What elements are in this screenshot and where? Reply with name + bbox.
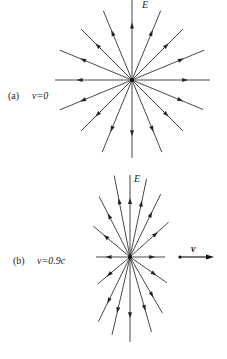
field-line [130, 257, 163, 313]
panel-a-field-label: E [142, 0, 148, 10]
field-diagram [0, 0, 227, 359]
arrowhead-icon [80, 59, 86, 63]
field-line [130, 194, 161, 257]
field-line [130, 257, 167, 283]
field-line [81, 29, 132, 80]
arrowhead-icon [149, 291, 154, 297]
field-line [99, 196, 130, 257]
arrowhead-icon [148, 212, 152, 218]
arrowhead-icon [107, 297, 111, 303]
arrowhead-icon [77, 78, 83, 82]
panel-b-tag: (b) [13, 255, 25, 266]
arrowhead-icon [149, 30, 153, 36]
arrowhead-icon [182, 78, 188, 82]
charge-dot-icon [130, 78, 134, 82]
panel-b-field-lines [93, 175, 168, 342]
arrowhead-icon [178, 59, 184, 63]
arrowhead-icon [130, 130, 134, 136]
panel-b-condition: v=0.9c [37, 255, 65, 266]
field-line [130, 179, 147, 257]
arrowhead-icon [80, 97, 86, 101]
field-label-e: E [142, 0, 148, 10]
panel-b-tag-text: (b) [13, 255, 25, 266]
field-label-e-b: E [134, 173, 140, 184]
arrowhead-icon [149, 255, 155, 259]
field-line [81, 80, 132, 131]
panel-a-condition: v=0 [32, 90, 48, 101]
arrowhead-icon [128, 198, 132, 204]
field-line [130, 222, 169, 257]
arrowhead-icon [151, 271, 157, 276]
panel-a-condition-text: v=0 [32, 90, 48, 101]
field-line [98, 257, 130, 284]
field-line [132, 80, 183, 131]
arrowhead-icon [130, 22, 134, 28]
velocity-arrow-icon [178, 255, 214, 260]
arrowhead-icon [149, 126, 153, 132]
panel-a-tag: (a) [8, 90, 19, 101]
arrowhead-icon [111, 30, 115, 36]
velocity-label-text: v [191, 243, 195, 254]
panel-b-field-label: E [134, 173, 140, 184]
field-line [98, 257, 130, 322]
charge-dot-icon [128, 255, 132, 259]
field-line [112, 257, 130, 335]
panel-b-condition-text: v=0.9c [37, 255, 65, 266]
arrowhead-icon [177, 97, 183, 101]
arrowhead-icon [106, 255, 112, 259]
arrowhead-icon [142, 305, 146, 311]
arrowhead-icon [128, 312, 132, 318]
arrowhead-icon [108, 213, 113, 219]
panel-a-tag-text: (a) [8, 90, 19, 101]
arrowhead-icon [116, 307, 120, 313]
field-line [130, 257, 152, 332]
arrowhead-icon [111, 126, 115, 132]
panel-a-field-lines [55, 0, 210, 158]
field-line [114, 176, 130, 258]
velocity-label: v [191, 243, 195, 254]
field-line [132, 29, 183, 80]
